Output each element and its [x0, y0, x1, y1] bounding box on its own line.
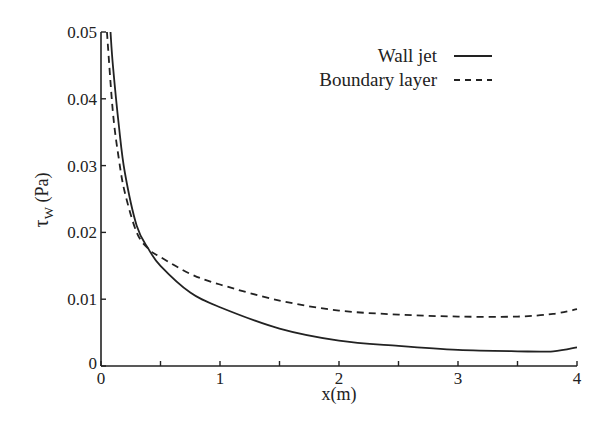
y-tick-label: 0.01 [67, 290, 97, 309]
y-tick-label: 0 [89, 354, 98, 373]
x-tick-label: 3 [454, 369, 463, 388]
legend: Wall jet Boundary layer [319, 45, 492, 90]
x-tick-label: 4 [573, 369, 582, 388]
svg-text:τW (Pa): τW (Pa) [30, 173, 56, 228]
y-tick-label: 0.03 [67, 157, 97, 176]
x-tick-label: 1 [216, 369, 225, 388]
legend-label: Wall jet [378, 45, 438, 66]
x-tick-label: 0 [97, 369, 106, 388]
legend-item-boundary-layer: Boundary layer [319, 69, 492, 90]
y-axis-label: τW (Pa) [30, 173, 56, 228]
y-label-unit: (Pa) [32, 173, 53, 208]
legend-label: Boundary layer [319, 69, 437, 90]
y-tick-label: 0.02 [67, 223, 97, 242]
y-label-symbol: τ [30, 219, 52, 227]
y-label-subscript: W [41, 206, 56, 219]
y-tick-label: 0.05 [67, 23, 97, 42]
chart: 0123400.010.020.030.040.05 x(m) τW (Pa) … [0, 0, 600, 428]
x-axis-label: x(m) [322, 384, 357, 405]
y-tick-label: 0.04 [67, 90, 97, 109]
legend-item-wall-jet: Wall jet [378, 45, 492, 66]
